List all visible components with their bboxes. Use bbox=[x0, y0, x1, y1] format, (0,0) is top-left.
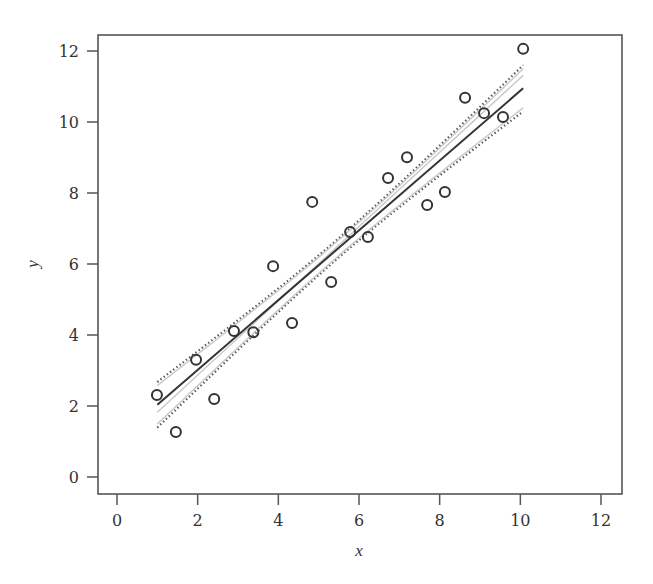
x-axis-title: x bbox=[354, 541, 363, 560]
dotted-band-lower bbox=[157, 111, 523, 427]
x-tick-label: 10 bbox=[510, 511, 530, 530]
data-point bbox=[363, 232, 373, 242]
data-point bbox=[402, 152, 412, 162]
data-point bbox=[518, 44, 528, 54]
data-point bbox=[152, 390, 162, 400]
data-point bbox=[229, 326, 239, 336]
y-tick-label: 0 bbox=[69, 468, 79, 487]
x-tick-label: 8 bbox=[435, 511, 445, 530]
y-tick-label: 2 bbox=[69, 397, 79, 416]
data-point bbox=[191, 355, 201, 365]
data-point bbox=[383, 173, 393, 183]
y-tick-label: 10 bbox=[59, 113, 79, 132]
light-band-lower bbox=[157, 108, 523, 424]
y-tick-label: 6 bbox=[69, 255, 79, 274]
data-point bbox=[171, 427, 181, 437]
data-point bbox=[307, 197, 317, 207]
data-point bbox=[422, 200, 432, 210]
fitted-line bbox=[157, 88, 523, 405]
x-tick-label: 6 bbox=[354, 511, 364, 530]
y-axis: 024681012 bbox=[59, 42, 98, 487]
x-tick-label: 12 bbox=[591, 511, 611, 530]
x-tick-label: 2 bbox=[193, 511, 203, 530]
y-tick-label: 4 bbox=[69, 326, 79, 345]
y-axis-title: y bbox=[23, 260, 42, 270]
data-point bbox=[268, 261, 278, 271]
true-line bbox=[157, 75, 523, 412]
y-tick-label: 12 bbox=[59, 42, 79, 61]
dotted-band-upper bbox=[157, 65, 523, 382]
data-point bbox=[209, 394, 219, 404]
y-tick-label: 8 bbox=[69, 184, 79, 203]
data-point bbox=[479, 108, 489, 118]
data-point bbox=[440, 187, 450, 197]
data-point bbox=[287, 318, 297, 328]
light-band-upper bbox=[157, 69, 523, 386]
x-axis: 024681012 bbox=[112, 494, 611, 530]
data-points bbox=[152, 44, 528, 437]
plot-frame bbox=[98, 35, 622, 494]
data-point bbox=[460, 93, 470, 103]
x-tick-label: 0 bbox=[112, 511, 122, 530]
data-point bbox=[498, 112, 508, 122]
scatter-chart: 024681012 024681012 x y bbox=[0, 0, 653, 584]
data-point bbox=[326, 277, 336, 287]
regression-lines bbox=[157, 75, 523, 412]
x-tick-label: 4 bbox=[273, 511, 283, 530]
